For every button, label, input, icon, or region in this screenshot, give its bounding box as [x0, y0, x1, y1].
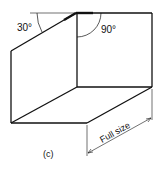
angle-label-90: 90°	[101, 24, 116, 35]
angle-arc-90	[77, 13, 101, 37]
thick-edge	[64, 13, 76, 20]
angle-label-30: 30°	[17, 22, 32, 33]
angle-arc-30	[37, 13, 42, 32]
figure-caption: (c)	[43, 149, 54, 159]
dimension-line	[87, 89, 152, 156]
oblique-projection-diagram: 30° 90° Full size (c)	[0, 0, 162, 169]
dimension-label: Full size	[98, 120, 132, 145]
box-outline	[11, 13, 152, 123]
